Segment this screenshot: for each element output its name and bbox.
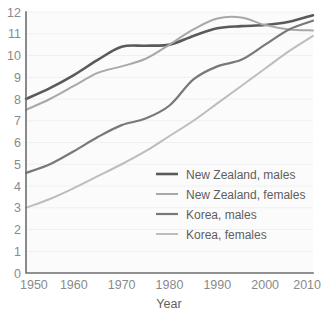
x-tick-label: 2010 bbox=[293, 278, 321, 292]
legend-label-0: New Zealand, males bbox=[186, 168, 295, 182]
x-axis-title: Year bbox=[156, 297, 181, 311]
x-tick-label: 1950 bbox=[20, 278, 48, 292]
x-axis-tick-labels: 1950196019701980199020002010 bbox=[20, 278, 321, 292]
x-tick-label: 1990 bbox=[203, 278, 231, 292]
x-tick-label: 1970 bbox=[108, 278, 136, 292]
x-tick-label: 2000 bbox=[251, 278, 279, 292]
y-tick-label: 11 bbox=[8, 27, 21, 41]
legend-label-1: New Zealand, females bbox=[186, 188, 305, 202]
y-tick-label: 10 bbox=[7, 49, 21, 63]
legend-label-3: Korea, females bbox=[186, 228, 267, 242]
y-tick-label: 3 bbox=[14, 201, 21, 215]
legend-label-2: Korea, males bbox=[186, 208, 257, 222]
y-tick-label: 7 bbox=[14, 114, 21, 128]
y-tick-label: 12 bbox=[7, 6, 21, 20]
x-tick-label: 1980 bbox=[156, 278, 184, 292]
chart-canvas: 0123456789101112 19501960197019801990200… bbox=[0, 0, 323, 315]
y-tick-label: 9 bbox=[14, 71, 21, 85]
y-tick-label: 6 bbox=[14, 136, 21, 150]
y-tick-label: 8 bbox=[14, 93, 21, 107]
y-axis-tick-labels: 0123456789101112 bbox=[7, 6, 21, 281]
line-chart: 0123456789101112 19501960197019801990200… bbox=[0, 0, 323, 315]
y-tick-label: 1 bbox=[14, 245, 21, 259]
y-tick-label: 4 bbox=[14, 180, 21, 194]
x-tick-label: 1960 bbox=[60, 278, 88, 292]
y-tick-label: 2 bbox=[14, 223, 21, 237]
y-tick-label: 5 bbox=[14, 158, 21, 172]
